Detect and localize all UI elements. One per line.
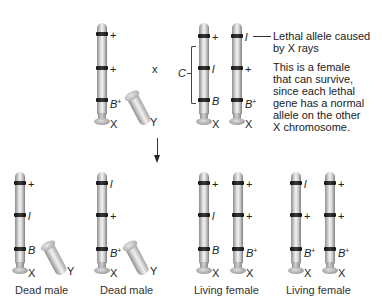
allele-label: l: [245, 32, 247, 43]
chromosome-label-x: X: [28, 268, 35, 279]
gene-band: [198, 98, 210, 102]
allele-label: l: [212, 64, 214, 75]
gene-band: [290, 247, 302, 251]
gene-band: [96, 32, 108, 36]
gene-band: [96, 213, 108, 217]
cross-symbol: x: [152, 64, 158, 75]
allele-label: +: [338, 179, 344, 190]
allele-symbol: l: [212, 210, 214, 222]
allele-symbol: B: [28, 244, 35, 256]
allele-symbol: B: [212, 95, 219, 107]
allele-label: +: [212, 179, 218, 190]
allele-label: +: [246, 211, 252, 222]
allele-symbol: l: [304, 178, 306, 190]
allele-symbol: l: [110, 178, 112, 190]
gene-band: [96, 247, 108, 251]
gene-band: [14, 213, 26, 217]
allele-label: l: [212, 211, 214, 222]
allele-symbol: +: [338, 210, 344, 222]
allele-label: B+: [110, 245, 121, 259]
allele-label: +: [212, 32, 218, 43]
allele-label: B: [212, 245, 219, 256]
gene-band: [14, 181, 26, 185]
allele-label: B: [212, 96, 219, 107]
gene-band: [198, 181, 210, 185]
gene-band: [198, 66, 210, 70]
gene-band: [324, 181, 336, 185]
gene-band: [231, 66, 243, 70]
allele-label: +: [245, 64, 251, 75]
allele-label: +: [110, 30, 116, 41]
allele-symbol: +: [304, 210, 310, 222]
allele-symbol: +: [338, 178, 344, 190]
annotation-lethal-line: by X rays: [273, 42, 319, 54]
chromosome-label-x: X: [110, 119, 117, 130]
centromere-knob: [94, 267, 110, 274]
annotation-female-line: This is a female: [273, 61, 350, 73]
y-chromosome: [126, 91, 153, 127]
allele-label: +: [110, 64, 116, 75]
bracket-label-c: C: [178, 68, 186, 79]
gene-band: [231, 34, 243, 38]
chromosome-label-y: Y: [150, 266, 157, 277]
centromere-knob: [322, 267, 338, 274]
gene-band: [198, 213, 210, 217]
allele-label: +: [28, 179, 34, 190]
y-chromosome: [42, 241, 69, 277]
offspring-caption: Living female: [286, 284, 351, 296]
annotation-leader-line: [253, 36, 271, 37]
allele-symbol: +: [245, 63, 251, 75]
allele-symbol: +: [246, 210, 252, 222]
allele-symbol: l: [28, 210, 30, 222]
offspring-caption: Living female: [194, 284, 259, 296]
allele-superscript: +: [345, 247, 349, 254]
centromere-knob: [196, 267, 212, 274]
chromosome-label-x: X: [212, 119, 219, 130]
allele-superscript: +: [117, 247, 121, 254]
chromosome-label-x: X: [110, 268, 117, 279]
allele-label: +: [338, 211, 344, 222]
gene-band: [232, 247, 244, 251]
allele-superscript: +: [311, 247, 315, 254]
allele-symbol: l: [245, 31, 247, 43]
gene-band: [290, 213, 302, 217]
arrow-down-icon: [154, 155, 160, 163]
allele-symbol: +: [110, 210, 116, 222]
y-chromosome-head: [39, 238, 57, 253]
centromere-knob: [196, 118, 212, 125]
gene-band: [231, 98, 243, 102]
gene-band: [14, 247, 26, 251]
allele-superscript: +: [117, 98, 121, 105]
allele-label: +: [304, 211, 310, 222]
allele-symbol: +: [110, 29, 116, 41]
centromere-knob: [12, 267, 28, 274]
offspring-caption: Dead male: [15, 284, 68, 296]
gene-band: [198, 247, 210, 251]
centromere-knob: [94, 118, 110, 125]
chromosome-label-x: X: [245, 119, 252, 130]
allele-label: B+: [338, 245, 349, 259]
centromere-knob: [230, 267, 246, 274]
annotation-female-line: since each lethal: [273, 85, 355, 97]
allele-label: +: [110, 211, 116, 222]
annotation-female-line: X chromosome.: [273, 121, 350, 133]
allele-symbol: +: [110, 63, 116, 75]
allele-label: B+: [245, 96, 256, 110]
gene-band: [324, 213, 336, 217]
gene-band: [198, 34, 210, 38]
bracket-tick: [187, 73, 191, 74]
allele-label: l: [110, 179, 112, 190]
chromosome-label-x: X: [246, 268, 253, 279]
gene-band: [290, 181, 302, 185]
centromere-knob: [229, 118, 245, 125]
gene-band: [96, 98, 108, 102]
allele-symbol: +: [28, 178, 34, 190]
y-chromosome-head: [123, 88, 141, 103]
chromosome-label-y: Y: [150, 117, 157, 128]
allele-label: +: [246, 179, 252, 190]
allele-symbol: B: [212, 244, 219, 256]
annotation-female-line: allele on the other: [273, 109, 360, 121]
chromosome-label-x: X: [304, 268, 311, 279]
allele-label: B+: [304, 245, 315, 259]
chromosome-label-x: X: [212, 268, 219, 279]
